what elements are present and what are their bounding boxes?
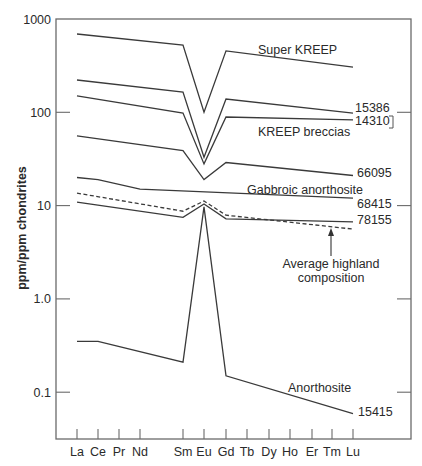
label-78155: 78155 (357, 213, 392, 227)
label-14310: 14310 (355, 114, 390, 128)
ree-chart: 1000100101.00.1 LaCePrNdSmEuGdTbDyHoErTm… (0, 0, 422, 466)
label-68415: 68415 (357, 197, 392, 211)
y-tick-label: 100 (30, 106, 51, 120)
series-66095 (77, 136, 353, 180)
plot-frame (56, 19, 411, 439)
x-tick-label-la: La (70, 445, 84, 459)
x-tick-label-gd: Gd (218, 445, 235, 459)
y-tick-label: 1000 (23, 13, 51, 27)
label-kreep-breccias: KREEP breccias (258, 125, 350, 139)
label-66095: 66095 (357, 166, 392, 180)
x-axis: LaCePrNdSmEuGdTbDyHoErTmLu (70, 429, 360, 459)
x-tick-label-ce: Ce (90, 445, 106, 459)
label-anorthosite: Anorthosite (288, 381, 351, 395)
label-composition: composition (298, 271, 365, 285)
y-tick-label: 1.0 (34, 292, 51, 306)
label-15386: 15386 (355, 101, 390, 115)
x-tick-label-nd: Nd (132, 445, 148, 459)
x-tick-label-lu: Lu (346, 445, 360, 459)
x-tick-label-ho: Ho (282, 445, 298, 459)
label-gabbroic-anorthosite: Gabbroic anorthosite (247, 183, 363, 197)
label-average-highland: Average highland (282, 257, 379, 271)
series-78155 (77, 202, 353, 222)
x-tick-label-er: Er (306, 445, 319, 459)
y-tick-label: 0.1 (34, 386, 51, 400)
y-tick-label: 10 (37, 199, 51, 213)
x-tick-label-sm: Sm (174, 445, 193, 459)
x-tick-label-dy: Dy (261, 445, 277, 459)
x-tick-label-eu: Eu (196, 445, 211, 459)
y-axis-title: ppm/ppm chondrites (15, 166, 29, 290)
label-15415: 15415 (358, 405, 393, 419)
x-tick-label-pr: Pr (113, 445, 126, 459)
arrow-up-icon (328, 228, 334, 256)
x-tick-label-tb: Tb (240, 445, 255, 459)
series-group (77, 34, 353, 414)
x-tick-label-tm: Tm (323, 445, 341, 459)
label-super-kreep: Super KREEP (258, 43, 337, 57)
